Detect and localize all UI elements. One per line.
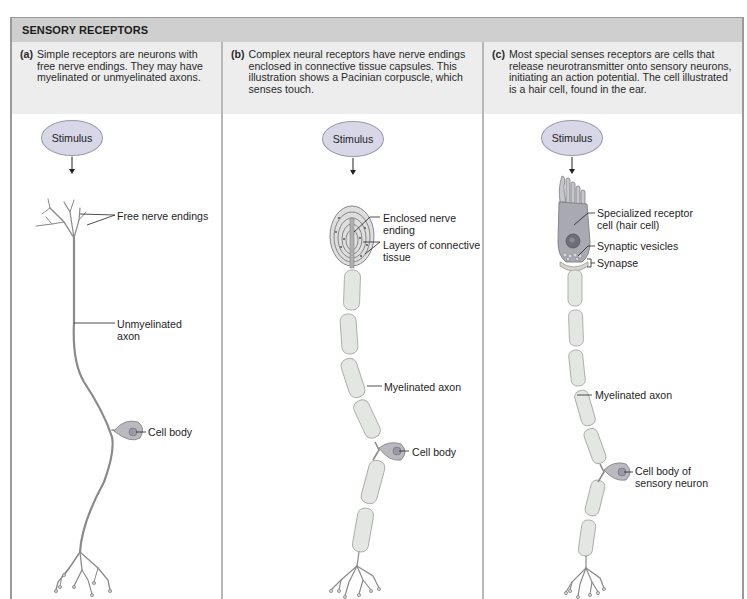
- hair-cell-receptor-illustration: [484, 42, 744, 599]
- label-myelinated-axon: Myelinated axon: [384, 381, 461, 393]
- panel-b: (b) Complex neural receptors have nerve …: [221, 42, 482, 599]
- label-unmyelinated: Unmyelinated: [117, 318, 182, 330]
- label-hair-cell: cell (hair cell): [597, 219, 659, 231]
- label-specialized-receptor: Specialized receptor: [597, 207, 693, 219]
- label-ending: ending: [383, 224, 415, 236]
- label-axon: axon: [117, 330, 140, 342]
- figure-frame: SENSORY RECEPTORS (a) Simple receptors a…: [10, 17, 744, 599]
- label-synapse: Synapse: [597, 257, 638, 269]
- label-cell-body: Cell body: [412, 446, 456, 458]
- label-cell-body: Cell body: [148, 426, 192, 438]
- label-enclosed-nerve: Enclosed nerve: [383, 212, 456, 224]
- label-cell-body-of: Cell body of: [635, 465, 691, 477]
- label-tissue: tissue: [383, 251, 411, 263]
- title-bar: SENSORY RECEPTORS: [12, 18, 742, 43]
- figure-title: SENSORY RECEPTORS: [22, 24, 148, 36]
- panel-c: (c) Most special senses receptors are ce…: [482, 42, 742, 599]
- label-layers-connective: Layers of connective: [383, 239, 480, 251]
- pacinian-corpuscle-illustration: [223, 42, 482, 599]
- panel-a: (a) Simple receptors are neurons with fr…: [12, 42, 221, 599]
- label-sensory-neuron: sensory neuron: [635, 477, 708, 489]
- label-free-nerve-endings: Free nerve endings: [117, 210, 208, 222]
- label-synaptic-vesicles: Synaptic vesicles: [597, 240, 678, 252]
- label-myelinated-axon: Myelinated axon: [595, 389, 672, 401]
